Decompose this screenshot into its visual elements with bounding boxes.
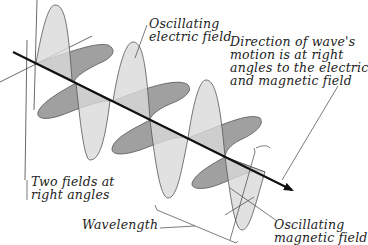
magnetic-field-label: Oscillating magnetic field bbox=[274, 218, 368, 244]
wavelength-label: Wavelength bbox=[82, 218, 158, 231]
electric-field-label: Oscillating electric field bbox=[149, 17, 232, 43]
two-fields-label: Two fields at right angles bbox=[31, 175, 115, 201]
wave-direction-label: Direction of wave's motion is at right a… bbox=[230, 35, 368, 87]
